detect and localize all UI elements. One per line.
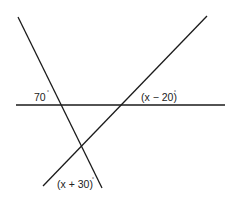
degree-symbol: ° [47, 89, 49, 95]
line-steep-descending [18, 17, 102, 188]
angle-label-x-minus-20: (x − 20) [141, 91, 177, 103]
line-ascending [43, 16, 207, 186]
angle-label-x-plus-30: (x + 30) [57, 178, 93, 190]
degree-symbol: ° [92, 176, 94, 182]
geometry-diagram: 70 ° (x − 20) ° (x + 30) ° [0, 0, 232, 200]
degree-symbol: ° [174, 89, 176, 95]
angle-label-70: 70 [34, 91, 46, 103]
